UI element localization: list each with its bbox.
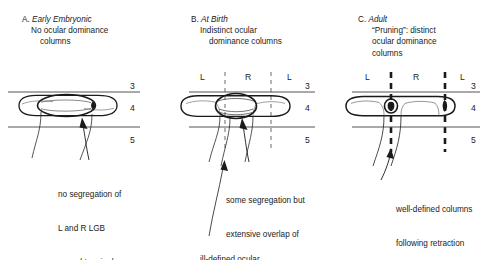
column-label-L2: L: [287, 72, 292, 82]
capsule-contour-left: [186, 101, 215, 104]
lobe-contour-right: [405, 101, 435, 103]
column-borders: [391, 72, 445, 152]
axon-leader-left: [32, 112, 41, 158]
overlap-contour-b: [41, 108, 91, 111]
axon-leader-3: [245, 116, 253, 162]
panel-c-caption-pruning: well-defined columns following retractio…: [396, 181, 472, 260]
column-label-L1: L: [200, 72, 205, 82]
caption-line: well-defined columns: [396, 204, 472, 215]
panel-at-birth: B. At Birth Indistinct ocular dominance …: [167, 0, 334, 260]
inner-overlap-zone: [38, 95, 96, 117]
overlap-contour-a: [218, 98, 254, 101]
lobe-edge-right: [435, 103, 439, 116]
caption-line: no segregation of: [58, 189, 121, 200]
caption-line: ill-defined ocular: [200, 254, 270, 260]
pruned-node-right: [443, 100, 448, 112]
panel-b-caption-borders: ill-defined ocular dominance borders: [200, 231, 270, 260]
column-label-L1: L: [365, 72, 370, 82]
caption-line: L and R LGB: [58, 223, 121, 234]
column-label-R: R: [413, 72, 419, 82]
capsule-contour-right: [257, 102, 285, 104]
layer-label-3: 3: [305, 81, 310, 91]
layer-label-4: 4: [471, 103, 476, 113]
column-arrow: [381, 156, 390, 180]
layer-label-5: 5: [305, 135, 310, 145]
overlap-contour-b: [219, 109, 253, 112]
outer-capsule: [19, 95, 117, 115]
column-borders: [225, 72, 271, 152]
layer-label-3: 3: [130, 81, 135, 91]
layer-label-4: 4: [130, 103, 135, 113]
overlap-arrow-head: [80, 118, 88, 130]
caption-line: following retraction: [396, 238, 472, 249]
column-arrow-head: [387, 148, 395, 159]
layer-label-3: 3: [471, 81, 476, 91]
panel-a-caption-segregation: no segregation of L and R LGB axonal ter…: [58, 166, 121, 260]
caption-line: some segregation but: [226, 195, 305, 206]
overlap-arrow-head: [240, 118, 248, 130]
layer-label-5: 5: [471, 135, 476, 145]
panel-adult: C. Adult “Pruning”: distinct ocular domi…: [334, 0, 501, 260]
layer-label-4: 4: [305, 103, 310, 113]
column-label-L2: L: [460, 72, 465, 82]
column-label-R: R: [245, 72, 251, 82]
axon-leader-1: [209, 116, 220, 162]
lobe-divider-right: [401, 103, 405, 115]
outer-capsule: [181, 96, 290, 117]
border-arrow: [209, 168, 223, 236]
lobe-divider-left: [379, 102, 384, 115]
layer-label-5: 5: [130, 135, 135, 145]
axon-leader-2: [221, 118, 230, 166]
overlap-arrow: [83, 125, 89, 160]
panel-early-embryonic: A. Early Embryonic No ocular dominance c…: [0, 0, 167, 260]
lobe-contour-left: [351, 101, 379, 103]
axon-leader-left: [373, 116, 384, 166]
